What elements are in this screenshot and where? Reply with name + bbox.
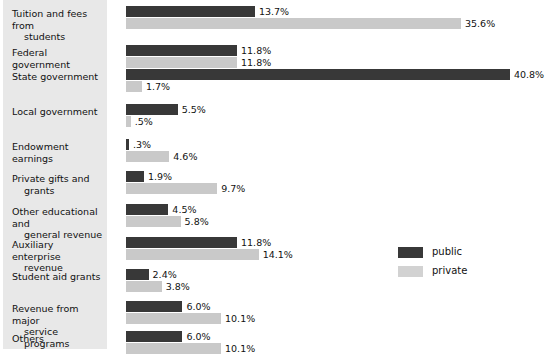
bar-public [126, 45, 237, 56]
bar-value-label: 11.8% [241, 237, 271, 248]
category-label: Others [12, 333, 104, 345]
category-label-line: Tuition and fees from [12, 8, 87, 31]
category-label: Other educational andgeneral revenue [12, 206, 104, 241]
category-label-line: Endowment earnings [12, 141, 68, 164]
bar-value-label: 1.7% [146, 81, 170, 92]
category-label-line: State government [12, 71, 98, 82]
bar-public [126, 69, 510, 80]
bar-value-label: 3.8% [166, 281, 190, 292]
category-label-line: Auxiliary enterprise [12, 239, 61, 262]
bar-private [126, 216, 181, 227]
category-label: Auxiliary enterpriserevenue [12, 239, 104, 274]
bar-private [126, 57, 237, 68]
plot-area: 13.7%35.6%11.8%11.8%40.8%1.7%5.5%.5%.3%4… [126, 0, 550, 359]
bar-value-label: 6.0% [186, 301, 210, 312]
bar-public [126, 331, 182, 342]
category-label: Private gifts andgrants [12, 173, 104, 196]
category-label: Local government [12, 106, 104, 118]
category-label-line: Revenue from major [12, 303, 79, 326]
category-label: Endowment earnings [12, 141, 104, 164]
category-label: Federal government [12, 47, 104, 70]
category-label-line: students [12, 31, 104, 43]
legend-label: public [432, 245, 462, 258]
bar-value-label: 5.8% [185, 216, 209, 227]
category-label-line: Federal government [12, 47, 70, 70]
bar-value-label: 10.1% [225, 313, 255, 324]
bar-value-label: .5% [135, 116, 153, 127]
bar-value-label: 14.1% [263, 249, 293, 260]
bar-value-label: .3% [133, 139, 151, 150]
bar-public [126, 204, 168, 215]
bar-public [126, 301, 182, 312]
bar-value-label: 40.8% [514, 69, 544, 80]
bar-public [126, 104, 178, 115]
bar-private [126, 313, 221, 324]
bar-public [126, 237, 237, 248]
bar-value-label: 4.5% [172, 204, 196, 215]
bar-public [126, 171, 144, 182]
category-label: State government [12, 71, 104, 83]
bar-private [126, 183, 217, 194]
bar-value-label: 35.6% [465, 18, 495, 29]
bar-value-label: 1.9% [148, 171, 172, 182]
bar-public [126, 139, 129, 150]
bar-private [126, 116, 131, 127]
bar-value-label: 6.0% [186, 331, 210, 342]
legend-swatch-private [398, 266, 423, 277]
grouped-bar-chart: Tuition and fees fromstudentsFederal gov… [0, 0, 550, 359]
bar-private [126, 81, 142, 92]
bar-value-label: 13.7% [259, 6, 289, 17]
bar-value-label: 10.1% [225, 343, 255, 354]
bar-value-label: 11.8% [241, 45, 271, 56]
bar-value-label: 5.5% [182, 104, 206, 115]
legend-label: private [432, 264, 467, 277]
bar-value-label: 2.4% [153, 269, 177, 280]
bar-public [126, 269, 149, 280]
category-label: Student aid grants [12, 271, 104, 283]
bar-private [126, 281, 162, 292]
category-label-line: Other educational and [12, 206, 98, 229]
bar-public [126, 6, 255, 17]
bar-private [126, 151, 169, 162]
bar-private [126, 18, 461, 29]
category-label-panel: Tuition and fees fromstudentsFederal gov… [3, 0, 107, 349]
bar-private [126, 343, 221, 354]
category-label-line: Student aid grants [12, 271, 100, 282]
legend-swatch-public [398, 247, 423, 258]
bar-private [126, 249, 259, 260]
category-label-line: Local government [12, 106, 98, 117]
category-label-line: grants [12, 185, 104, 197]
bar-value-label: 11.8% [241, 57, 271, 68]
category-label-line: Private gifts and [12, 173, 90, 184]
bar-value-label: 4.6% [173, 151, 197, 162]
bar-value-label: 9.7% [221, 183, 245, 194]
category-label: Tuition and fees fromstudents [12, 8, 104, 43]
category-label-line: Others [12, 333, 44, 344]
